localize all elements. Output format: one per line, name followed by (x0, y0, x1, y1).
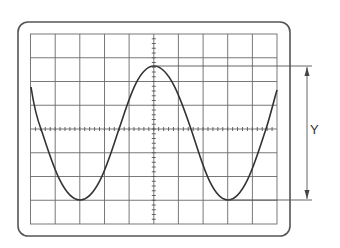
oscilloscope-diagram: Y (0, 0, 340, 248)
amplitude-label-y: Y (310, 122, 319, 137)
arrow-down-icon (305, 190, 310, 199)
amplitude-measurement (154, 66, 312, 200)
arrow-up-icon (305, 67, 310, 76)
